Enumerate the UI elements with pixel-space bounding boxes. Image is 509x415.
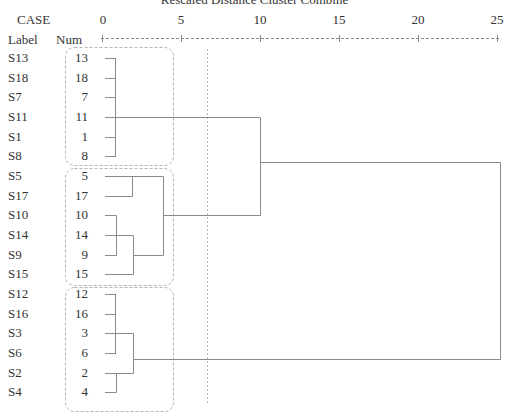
dendrogram-links: [105, 59, 501, 393]
group-box-1: [66, 48, 174, 166]
group-box-3: [66, 288, 174, 412]
distance-axis: [101, 35, 500, 42]
cluster-group-boxes: [66, 48, 174, 412]
dendrogram-graphic: [0, 0, 509, 415]
group-box-2: [66, 169, 174, 286]
